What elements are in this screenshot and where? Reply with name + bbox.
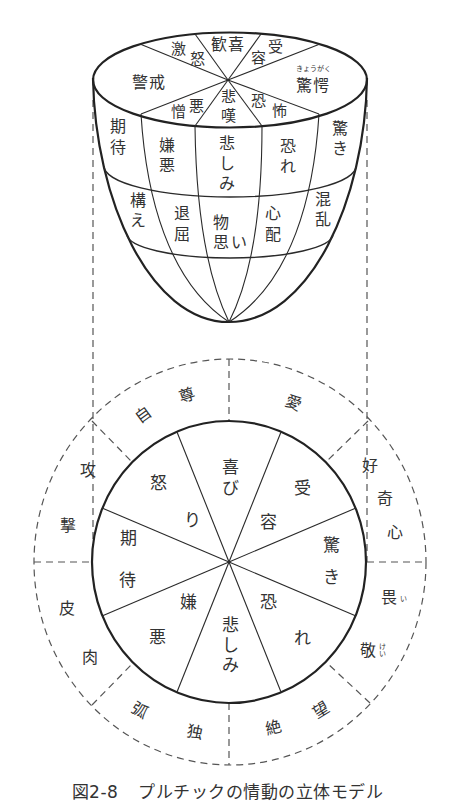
label-loathing-2: 悪 xyxy=(189,97,204,115)
label-trust-1: 受 xyxy=(294,478,311,498)
label-pensiveness-2: 思 xyxy=(213,233,229,252)
figure-caption: 図2-8プルチックの情動の立体モデル xyxy=(0,778,455,803)
label-awe-ruby-1: い xyxy=(400,595,407,603)
label-apprehension-1: 心 xyxy=(265,204,281,223)
ring-divider-upper-left xyxy=(92,421,131,461)
top-face-labels: 歓喜 受 容 驚愕 きょうがく 恐 怖 悲 嘆 憎 悪 警戒 激 怒 xyxy=(132,35,331,126)
figure-number: 図2-8 xyxy=(72,782,119,802)
label-cynicism-2: 肉 xyxy=(82,648,98,667)
label-loathing-1: 憎 xyxy=(171,103,186,121)
label-sadness-1: 悲 xyxy=(222,615,239,635)
label-rage-1: 激 xyxy=(171,40,186,58)
ring-divider-lower-right xyxy=(327,663,370,703)
label-curiosity-2: 奇 xyxy=(377,489,393,508)
label-anger-1: 怒 xyxy=(150,473,167,493)
label-joy-2: び xyxy=(222,478,239,498)
label-sadness-3: み xyxy=(219,174,235,193)
label-pride-2: 尊 xyxy=(176,383,197,406)
label-disgust-2: 悪 xyxy=(159,156,175,175)
label-admiration-2: 容 xyxy=(251,49,266,67)
label-sadness-2: し xyxy=(222,635,239,655)
label-amazement-ruby: きょうがく xyxy=(296,64,331,73)
solid-outline-left xyxy=(93,78,229,322)
label-disgust-1: 嫌 xyxy=(159,136,175,155)
label-terror-2: 怖 xyxy=(272,102,287,120)
label-curiosity-1: 好 xyxy=(362,456,378,475)
label-fear-2: れ xyxy=(294,628,311,648)
label-grief-2: 嘆 xyxy=(221,107,236,125)
label-pensiveness-3: い xyxy=(231,233,247,252)
label-surprise-1: 驚 xyxy=(332,119,348,138)
label-boredom-2: 屈 xyxy=(174,225,190,244)
label-trust-2: 容 xyxy=(260,512,277,532)
label-aggression-2: 撃 xyxy=(60,516,76,535)
label-interest-2: え xyxy=(130,211,146,230)
label-admiration-1: 受 xyxy=(268,38,283,56)
label-despair-2: 望 xyxy=(309,698,333,723)
label-aggression-1: 攻 xyxy=(80,461,96,480)
label-disgust-1: 嫌 xyxy=(180,592,197,612)
ring-divider-lower-left xyxy=(92,664,132,705)
label-awe-1: 畏 xyxy=(381,588,397,607)
label-distraction-2: 乱 xyxy=(315,210,331,229)
label-awe-ruby-2: けい xyxy=(378,643,387,657)
label-sadness-2: し xyxy=(219,154,235,173)
label-love: 愛 xyxy=(282,391,304,415)
label-grief-1: 悲 xyxy=(221,88,236,106)
label-loneliness-1: 弧 xyxy=(128,698,152,723)
label-pensiveness-1: 物 xyxy=(213,213,229,232)
label-ecstasy: 歓喜 xyxy=(211,35,245,54)
label-surprise-1: 驚 xyxy=(323,535,340,555)
label-anger-2: り xyxy=(184,510,201,530)
label-anticipation-2: 待 xyxy=(110,138,126,157)
label-surprise-2: き xyxy=(332,139,348,158)
label-cynicism-1: 皮 xyxy=(59,599,75,618)
label-surprise-2: き xyxy=(323,567,340,587)
label-pride-1: 自 xyxy=(131,403,155,428)
label-sadness-1: 悲 xyxy=(219,134,235,153)
label-distraction-1: 混 xyxy=(315,190,331,209)
label-anticipation-1: 期 xyxy=(110,117,126,136)
label-sadness-3: み xyxy=(222,655,239,675)
label-awe-2: 敬 xyxy=(360,641,376,660)
plutchik-solid-model-figure: 歓喜 受 容 驚愕 きょうがく 恐 怖 悲 嘆 憎 悪 警戒 激 怒 期 待 嫌… xyxy=(0,0,455,808)
label-fear-1: 恐 xyxy=(260,592,277,612)
label-amazement: 驚愕 xyxy=(296,76,330,95)
solid-band-3 xyxy=(127,234,333,258)
label-fear-2: れ xyxy=(280,157,296,176)
figure-title: プルチックの情動の立体モデル xyxy=(138,782,383,802)
label-loneliness-2: 独 xyxy=(185,721,204,743)
label-fear-1: 恐 xyxy=(280,137,296,156)
solid-outline-right xyxy=(229,78,367,322)
label-anticipation-2: 待 xyxy=(119,570,136,590)
label-apprehension-2: 配 xyxy=(265,225,281,244)
label-terror-1: 恐 xyxy=(251,92,266,110)
label-anticipation-1: 期 xyxy=(120,528,137,548)
label-vigilance: 警戒 xyxy=(132,73,166,92)
label-interest-1: 構 xyxy=(130,191,146,210)
label-boredom-1: 退 xyxy=(174,204,190,223)
solid-model: 歓喜 受 容 驚愕 きょうがく 恐 怖 悲 嘆 憎 悪 警戒 激 怒 期 待 嫌… xyxy=(93,33,367,323)
label-disgust-2: 悪 xyxy=(149,627,166,647)
label-curiosity-3: 心 xyxy=(387,523,403,542)
label-joy-1: 喜 xyxy=(222,457,239,477)
label-despair-1: 絶 xyxy=(263,717,283,739)
label-rage-2: 怒 xyxy=(190,50,205,68)
emotion-wheel: 喜 び 受 容 驚 き 恐 れ 悲 し み 嫌 悪 期 待 怒 り 愛 好 奇 … xyxy=(34,359,426,765)
